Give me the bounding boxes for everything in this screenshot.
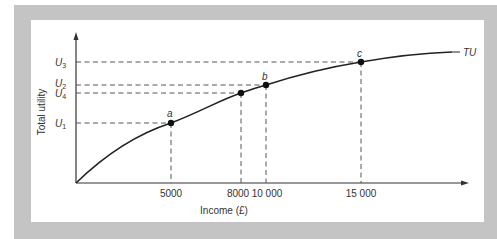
svg-text:U2: U2 [55,78,66,90]
point-label-a: a [167,108,173,119]
svg-text:5000: 5000 [160,188,183,199]
svg-text:15 000: 15 000 [346,188,377,199]
point-c [358,59,364,65]
svg-text:U1: U1 [55,118,66,130]
x-axis-title: Income (£) [200,205,248,216]
point-label-b: b [262,71,268,82]
x-axis-arrow-icon [461,181,469,186]
svg-text:10 000: 10 000 [252,188,283,199]
dashed-guides [76,62,361,183]
point-a [168,120,174,126]
x-tick-labels: 5000 8000 10 000 15 000 [160,188,377,199]
y-tick-labels: U1 U4 U2 U3 [55,57,66,130]
y-axis-arrow-icon [74,32,79,40]
y-axis-title: Total utility [36,89,47,136]
point-label-c: c [357,48,362,59]
total-utility-chart: a b c TU U1 U4 U2 U3 5000 8000 10 000 15… [0,0,497,239]
point-8000 [238,90,244,96]
curve-label-tu: TU [463,47,477,58]
svg-text:U3: U3 [55,57,66,69]
point-b [263,82,269,88]
svg-text:8000: 8000 [227,188,250,199]
